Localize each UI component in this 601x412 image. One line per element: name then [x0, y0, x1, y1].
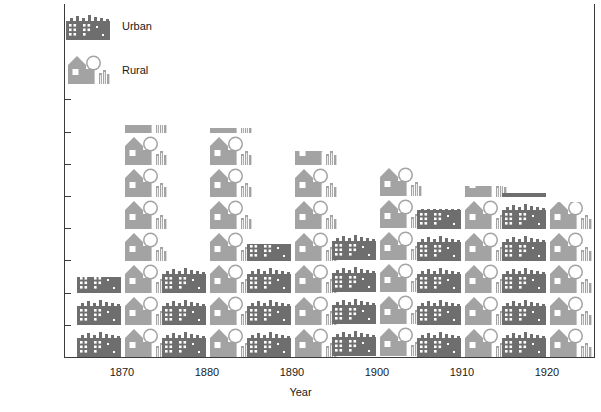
- pictograph-chart: Percentage of U.S. Population 1020304050…: [0, 0, 601, 412]
- x-tick-label-1880: 1880: [177, 366, 237, 378]
- urban-city-icon: [417, 209, 461, 229]
- rural-house-icon: [463, 197, 507, 229]
- x-tick-label-1910: 1910: [432, 366, 492, 378]
- urban-city-icon: [247, 293, 291, 325]
- rural-house-icon: [463, 325, 507, 357]
- urban-city-icon: [162, 325, 206, 357]
- x-tick-label-1900: 1900: [347, 366, 407, 378]
- rural-house-icon: [208, 229, 252, 261]
- rural-house-icon-stack: [208, 128, 252, 357]
- rural-house-icon: [208, 133, 252, 165]
- urban-city-icon-stack: [247, 244, 291, 357]
- rural-house-icon-stack: [293, 151, 337, 357]
- rural-house-icon: [378, 260, 422, 292]
- urban-city-icon-stack: [502, 193, 546, 357]
- rural-house-icon: [293, 261, 337, 293]
- rural-house-icon: [66, 52, 110, 88]
- rural-house-icon: [548, 202, 592, 229]
- urban-city-icon: [417, 261, 461, 293]
- rural-house-icon: [378, 324, 422, 356]
- urban-city-icon: [417, 229, 461, 261]
- rural-house-icon-stack: [463, 186, 507, 357]
- urban-city-icon: [332, 260, 376, 292]
- urban-city-icon: [77, 325, 121, 357]
- rural-house-icon: [463, 186, 507, 197]
- rural-house-icon: [293, 165, 337, 197]
- rural-house-icon: [378, 196, 422, 228]
- rural-house-icon: [123, 229, 167, 261]
- rural-house-icon: [293, 325, 337, 357]
- rural-house-icon: [293, 293, 337, 325]
- y-tick-80: [65, 99, 71, 100]
- urban-city-icon: [66, 8, 110, 44]
- urban-city-icon: [502, 293, 546, 325]
- rural-house-icon: [208, 165, 252, 197]
- urban-city-icon: [332, 324, 376, 356]
- rural-house-icon: [548, 293, 592, 325]
- rural-house-icon: [548, 229, 592, 261]
- y-tick-20: [65, 293, 71, 294]
- rural-house-icon: [378, 164, 422, 196]
- legend-label: Urban: [122, 20, 152, 32]
- rural-house-icon: [123, 293, 167, 325]
- y-tick-60: [65, 164, 71, 165]
- rural-house-icon: [378, 228, 422, 260]
- urban-city-icon: [502, 197, 546, 229]
- y-tick-40: [65, 228, 71, 229]
- rural-house-icon: [548, 325, 592, 357]
- urban-city-icon: [502, 261, 546, 293]
- rural-house-icon: [123, 133, 167, 165]
- rural-house-icon: [123, 125, 167, 133]
- urban-city-icon-stack: [162, 267, 206, 357]
- rural-house-icon: [463, 261, 507, 293]
- rural-house-icon-stack: [378, 164, 422, 357]
- rural-house-icon: [548, 261, 592, 293]
- urban-city-icon: [162, 293, 206, 325]
- urban-city-icon-stack: [77, 277, 121, 358]
- rural-house-icon: [208, 197, 252, 229]
- rural-house-icon: [293, 197, 337, 229]
- y-tick-30: [65, 260, 71, 261]
- rural-house-icon-stack: [548, 202, 592, 357]
- urban-city-icon: [332, 228, 376, 260]
- urban-city-icon: [417, 293, 461, 325]
- urban-city-icon-stack: [332, 228, 376, 357]
- rural-house-icon: [378, 292, 422, 324]
- y-tick-70: [65, 132, 71, 133]
- x-tick-label-1920: 1920: [517, 366, 577, 378]
- rural-house-icon: [293, 151, 337, 165]
- rural-house-icon: [208, 261, 252, 293]
- urban-city-icon: [502, 229, 546, 261]
- urban-city-icon: [332, 292, 376, 324]
- x-axis-title: Year: [0, 386, 601, 398]
- urban-city-icon: [417, 325, 461, 357]
- urban-city-icon: [247, 244, 291, 261]
- urban-city-icon: [247, 325, 291, 357]
- rural-house-icon: [123, 261, 167, 293]
- y-tick-10: [65, 325, 71, 326]
- rural-house-icon: [208, 325, 252, 357]
- urban-city-icon: [77, 293, 121, 325]
- rural-house-icon: [463, 293, 507, 325]
- x-tick-label-1870: 1870: [92, 366, 152, 378]
- urban-city-icon: [162, 267, 206, 293]
- urban-city-icon: [502, 325, 546, 357]
- y-tick-50: [65, 196, 71, 197]
- legend-item-rural[interactable]: Rural: [66, 52, 152, 88]
- rural-house-icon: [123, 197, 167, 229]
- legend-label: Rural: [122, 64, 148, 76]
- legend-item-urban[interactable]: Urban: [66, 8, 152, 44]
- urban-city-icon-stack: [417, 209, 461, 357]
- rural-house-icon: [208, 293, 252, 325]
- rural-house-icon: [293, 229, 337, 261]
- urban-city-icon: [77, 277, 121, 294]
- chart-legend: UrbanRural: [66, 8, 152, 96]
- rural-house-icon: [463, 229, 507, 261]
- x-tick-label-1890: 1890: [262, 366, 322, 378]
- rural-house-icon: [123, 165, 167, 197]
- rural-house-icon-stack: [123, 125, 167, 357]
- rural-house-icon: [123, 325, 167, 357]
- urban-city-icon: [247, 261, 291, 293]
